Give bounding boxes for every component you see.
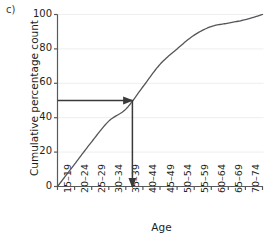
gridlines (58, 15, 264, 153)
chart-plot-area (0, 0, 266, 237)
figure-panel-c: c) Cumulative percentage count Age 02040… (0, 0, 266, 237)
